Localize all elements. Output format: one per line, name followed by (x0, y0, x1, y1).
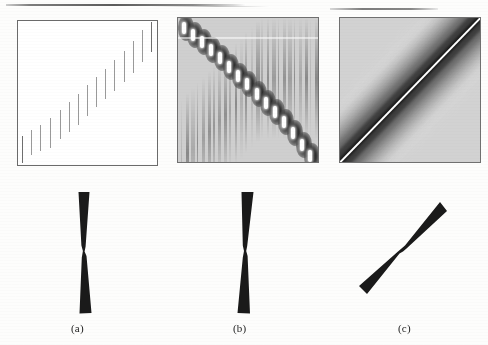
panel-b-auto-term-blob (218, 52, 222, 64)
caption-a: (a) (71, 322, 84, 334)
panel-b-interference-streak (240, 38, 244, 159)
panel-b-auto-term-blob (255, 88, 259, 100)
panel-b-auto-term-blob (300, 139, 304, 151)
panel-a-impulse-tick (142, 30, 143, 62)
kernel-shape-a (64, 190, 104, 316)
caption-c: (c) (398, 322, 411, 334)
scan-artifact-line-right (330, 8, 438, 10)
panel-b-auto-term-blob (245, 78, 249, 90)
panel-b-auto-term-blob (273, 106, 277, 118)
panel-a-impulse-tick (60, 110, 61, 140)
scan-artifact-line-middle (150, 6, 270, 7)
panel-a-impulse-tick (22, 136, 23, 163)
panel-a-impulse-tick (31, 130, 32, 155)
panel-a-impulse-tick (78, 94, 79, 125)
panel-a-impulse-tick (96, 77, 97, 107)
kernel-shape-c (356, 198, 452, 302)
caption-b: (b) (233, 322, 246, 334)
panel-a-impulse-tick (114, 60, 115, 91)
panel-b-auto-term-blob (182, 22, 186, 34)
panel-a-impulse-tick (124, 51, 125, 82)
panel-a-impulse-tick (69, 102, 70, 133)
panel-b-interference-streak (202, 77, 205, 163)
panel-b-auto-term-blob (209, 44, 213, 56)
panel-b-auto-term-blob (236, 70, 240, 82)
panel-a-impulse-tick (151, 22, 152, 52)
panel-a-impulse-tick (105, 69, 106, 100)
panel-b-interference-streak (191, 88, 195, 163)
panel-a-impulse-tick (40, 125, 41, 152)
panel-c-time-frequency-plot (339, 17, 481, 163)
panel-a-impulse-tick (87, 85, 88, 116)
panel-b-interference-streak (218, 60, 221, 163)
panel-b-interference-streak (186, 93, 189, 163)
panel-a-impulse-tick (133, 41, 134, 73)
panel-b-auto-term-blob (282, 116, 286, 128)
panel-b-auto-term-blob (308, 150, 312, 162)
panel-b-interference-streak (208, 71, 212, 163)
panel-b-auto-term-blob (291, 127, 295, 139)
panel-a-time-frequency-plot (17, 20, 158, 166)
panel-b-auto-term-blob (191, 29, 195, 41)
panel-b-auto-term-blob (264, 97, 268, 109)
panel-b-scan-band (178, 37, 318, 39)
panel-b-interference-streak (197, 82, 199, 163)
panel-b-interference-streak (213, 66, 215, 163)
kernel-shape-b (224, 190, 266, 316)
panel-b-time-frequency-plot (177, 17, 319, 163)
panel-a-impulse-tick (50, 118, 51, 148)
panel-b-interference-streak (181, 99, 183, 163)
panel-b-auto-term-blob (227, 61, 231, 73)
